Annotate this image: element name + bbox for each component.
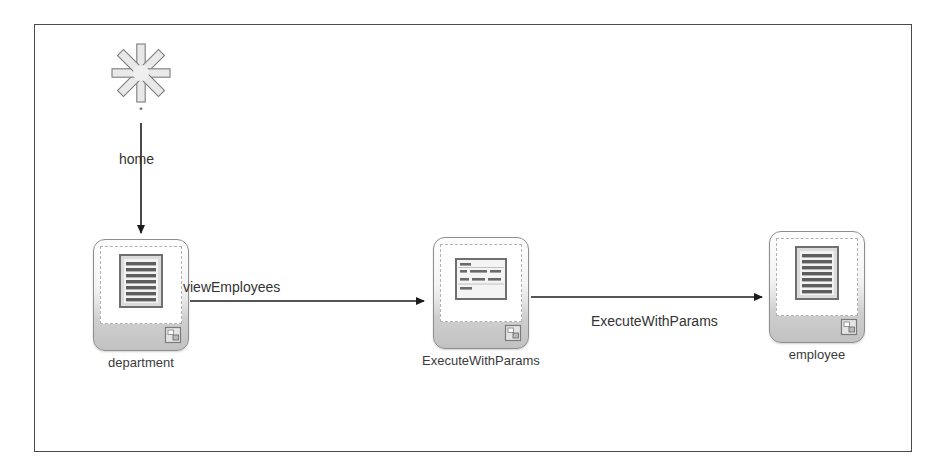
node-executewithparams[interactable]: ExecuteWithParams [433,237,529,349]
view-page-document-icon [795,246,839,304]
node-department-label: department [53,355,229,371]
node-employee-label: employee [729,347,905,363]
node-executewithparams-label: ExecuteWithParams [393,353,569,369]
edge-label-home[interactable]: home [119,151,154,167]
method-call-form-icon [455,258,507,304]
wildcard-asterisk-icon[interactable] [109,41,173,105]
page-fragment-badge-icon [164,326,182,344]
view-page-document-icon [119,254,163,312]
diagram-canvas[interactable]: * [34,24,912,452]
page-fragment-badge-icon [840,318,858,336]
edge-label-executewithparams[interactable]: ExecuteWithParams [591,313,718,329]
page-fragment-badge-icon [504,324,522,342]
asterisk-glyph [109,41,173,105]
wildcard-node-label: * [109,105,173,115]
edge-label-viewemployees[interactable]: viewEmployees [183,279,280,295]
node-department[interactable]: department [93,239,189,351]
node-employee[interactable]: employee [769,231,865,343]
